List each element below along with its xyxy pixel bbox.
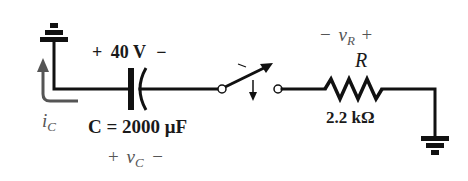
resistor-value-label: 2.2 kΩ [326, 108, 375, 127]
capacitor-initial-voltage-label: + 40 V − [92, 42, 166, 62]
resistor-voltage-label: − vR + [320, 24, 372, 49]
rc-circuit-diagram: iC + 40 V − C = 2000 μF + vC − [0, 0, 468, 181]
current-label: iC [42, 110, 56, 134]
switch-icon[interactable] [218, 63, 282, 101]
ground-right-icon [421, 136, 449, 155]
wire-resistor-to-ground [382, 89, 435, 138]
resistor-name-label: R [354, 49, 367, 71]
current-arrow-icon [37, 58, 78, 101]
capacitor-value-label: C = 2000 μF [88, 116, 187, 137]
ground-left-icon [40, 23, 68, 42]
capacitor-voltage-label: + vC − [108, 146, 163, 171]
resistor-icon [325, 79, 382, 99]
